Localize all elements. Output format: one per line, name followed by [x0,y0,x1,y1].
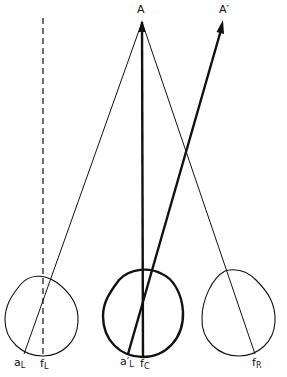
label-A: A [137,4,145,15]
line-A-to-aL [24,22,142,354]
line-A-to-fR [142,22,255,354]
left-eye [5,276,78,356]
label-aL-sub: L [21,361,25,370]
label-fL: fL [40,358,48,371]
label-fR: fR [252,357,261,370]
label-aL-prime-sub: L [129,360,133,369]
label-aL-prime: a′L [120,356,134,369]
arrowhead-A-prime [217,20,225,34]
arrowhead-A [139,20,146,32]
label-fC: fC [140,358,149,371]
label-fL-sub: L [44,362,48,371]
label-aL: aL [14,357,25,370]
label-aL-prime-main: a′ [120,355,129,368]
binocular-diagram [0,0,287,377]
label-aL-main: a [14,356,21,369]
label-A-prime: A′ [219,4,229,15]
label-fR-sub: R [256,361,262,370]
label-fC-sub: C [144,362,150,371]
right-eye [202,270,275,356]
